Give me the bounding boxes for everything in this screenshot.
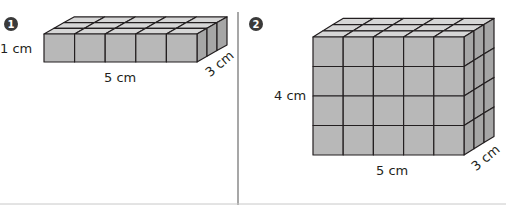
cube-prism-figure: [44, 17, 227, 62]
problem-number-badge: 1: [4, 17, 18, 31]
svg-text:1: 1: [8, 19, 15, 30]
problem-number-badge: 2: [249, 17, 263, 31]
length-label: 5 cm: [104, 70, 136, 85]
cube-prism-figure: [313, 18, 494, 155]
problem-1: 1 1 cm 5 cm 3 cm: [0, 17, 237, 85]
svg-text:2: 2: [253, 19, 260, 30]
problem-2: 2 4 cm 5 cm 3 cm: [249, 17, 503, 178]
length-label: 5 cm: [376, 163, 408, 178]
worksheet-canvas: 1 1 cm 5 cm 3 cm 2 4 cm 5 cm 3 cm: [0, 0, 506, 205]
height-label: 4 cm: [274, 88, 306, 103]
height-label: 1 cm: [0, 41, 32, 56]
